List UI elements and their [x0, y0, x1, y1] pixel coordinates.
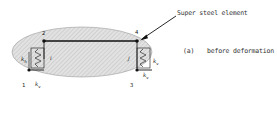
node-2	[42, 39, 46, 43]
callout-text: Super steel element	[177, 9, 248, 17]
element-label-j: j	[128, 55, 130, 61]
spring-label-kh-right: kv	[153, 58, 159, 66]
spring-label-kv-left: kv	[35, 81, 41, 89]
element-label-i: i	[50, 55, 52, 61]
node-label-1: 1	[22, 82, 25, 88]
node-label-3: 3	[130, 82, 133, 88]
callout-arrow-line	[142, 16, 176, 39]
node-4	[135, 39, 139, 43]
node-3	[135, 68, 138, 71]
callout-arrow-head	[140, 35, 148, 41]
diagram-canvas	[0, 0, 277, 120]
caption-tag: (a)	[183, 47, 194, 55]
node-label-4: 4	[135, 29, 138, 35]
caption-text: before deformation	[207, 47, 274, 55]
super-element-ellipse	[12, 27, 152, 77]
node-1	[27, 68, 30, 71]
node-label-2: 2	[42, 30, 45, 36]
spring-label-kv-right: kv	[143, 72, 149, 80]
spring-label-kh-left: kh	[21, 56, 27, 64]
